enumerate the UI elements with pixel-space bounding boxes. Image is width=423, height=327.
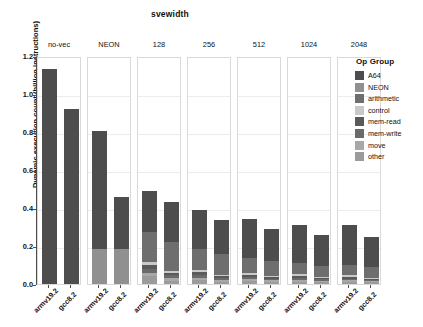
- facet-label-128: 128: [137, 40, 181, 49]
- gridline: [288, 210, 330, 211]
- panel-1024: [287, 57, 331, 285]
- y-tick-label: 1.0: [3, 90, 33, 99]
- gridline: [288, 172, 330, 173]
- bar-segment-other: [164, 281, 179, 284]
- facet-label-256: 256: [187, 40, 231, 49]
- bar-segment-A64: [342, 225, 357, 265]
- bar-512-armv19.2: [242, 219, 257, 284]
- bar-segment-other: [314, 282, 329, 284]
- x-tick-mark: [298, 285, 299, 288]
- x-tick-mark: [98, 285, 99, 288]
- bar-segment-arithmetic: [242, 258, 257, 273]
- bar-segment-A64: [92, 131, 107, 249]
- bar-2048-gcc8.2: [364, 237, 379, 285]
- bar-segment-NEON: [92, 249, 107, 284]
- y-axis-ticks: 0.00.20.40.60.81.01.2: [0, 0, 33, 327]
- facet-label-512: 512: [237, 40, 281, 49]
- y-tick-mark: [33, 171, 36, 172]
- bar-segment-arithmetic: [192, 249, 207, 270]
- x-tick-mark: [348, 285, 349, 288]
- bar-256-gcc8.2: [214, 220, 229, 284]
- y-tick-label: 1.2: [3, 52, 33, 61]
- bar-segment-arithmetic: [292, 263, 307, 274]
- bar-segment-A64: [314, 235, 329, 266]
- bar-NEON-gcc8.2: [114, 197, 129, 284]
- bar-segment-arithmetic: [164, 242, 179, 271]
- bar-segment-A64: [214, 220, 229, 253]
- legend-item-A64: A64: [355, 71, 423, 80]
- panel-NEON: [87, 57, 131, 285]
- bar-segment-other: [364, 282, 379, 284]
- facet-label-NEON: NEON: [87, 40, 131, 49]
- chart-title: svewidth: [0, 9, 340, 19]
- gridline: [238, 210, 280, 211]
- legend-swatch-icon: [355, 94, 364, 103]
- x-tick-mark: [220, 285, 221, 288]
- legend-label: A64: [368, 71, 381, 80]
- bar-segment-other: [142, 276, 157, 284]
- legend-swatch-icon: [355, 117, 364, 126]
- gridline: [188, 134, 230, 135]
- bar-segment-arithmetic: [214, 254, 229, 275]
- legend: Op Group A64NEONarithmeticcontrolmem-rea…: [355, 57, 423, 164]
- legend-swatch-icon: [355, 83, 364, 92]
- x-tick-mark: [198, 285, 199, 288]
- gridline: [338, 172, 380, 173]
- x-tick-label: armv19.2: [232, 290, 257, 315]
- bar-segment-other: [242, 281, 257, 284]
- bar-segment-A64: [364, 237, 379, 268]
- x-tick-mark: [48, 285, 49, 288]
- legend-item-arithmetic: arithmetic: [355, 94, 423, 103]
- legend-label: mem-write: [368, 129, 402, 138]
- bar-segment-arithmetic: [314, 266, 329, 277]
- bar-no-vec-gcc8.2: [64, 109, 79, 284]
- legend-label: NEON: [368, 83, 389, 92]
- y-tick-label: 0.6: [3, 166, 33, 175]
- y-tick-label: 0.8: [3, 128, 33, 137]
- y-tick-mark: [33, 209, 36, 210]
- gridline: [288, 96, 330, 97]
- gridline: [88, 96, 130, 97]
- panel-512: [237, 57, 281, 285]
- bar-segment-NEON: [114, 249, 129, 284]
- gridline: [288, 134, 330, 135]
- panel-no-vec: [37, 57, 81, 285]
- legend-label: move: [368, 141, 386, 150]
- bar-segment-arithmetic: [342, 265, 357, 275]
- chart-figure: svewidth Dynamic execution count (billio…: [0, 0, 423, 327]
- facet-label-2048: 2048: [337, 40, 381, 49]
- bar-NEON-armv19.2: [92, 131, 107, 284]
- bar-128-armv19.2: [142, 191, 157, 284]
- bar-segment-A64: [292, 225, 307, 263]
- x-tick-mark: [370, 285, 371, 288]
- x-tick-label: armv19.2: [182, 290, 207, 315]
- legend-label: other: [368, 152, 384, 161]
- x-tick-mark: [148, 285, 149, 288]
- bar-256-armv19.2: [192, 210, 207, 284]
- y-tick-mark: [33, 285, 36, 286]
- gridline: [188, 172, 230, 173]
- x-tick-mark: [320, 285, 321, 288]
- bar-segment-A64: [242, 219, 257, 258]
- facet-label-no-vec: no-vec: [37, 40, 81, 49]
- gridline: [238, 96, 280, 97]
- legend-swatch-icon: [355, 106, 364, 115]
- bar-128-gcc8.2: [164, 202, 179, 284]
- bar-segment-other: [192, 280, 207, 284]
- y-axis-line: [36, 57, 37, 285]
- legend-label: mem-read: [368, 117, 401, 126]
- bar-segment-A64: [42, 69, 57, 284]
- x-tick-mark: [270, 285, 271, 288]
- legend-item-other: other: [355, 152, 423, 161]
- legend-item-mem-write: mem-write: [355, 129, 423, 138]
- y-tick-label: 0.0: [3, 280, 33, 289]
- y-tick-mark: [33, 95, 36, 96]
- legend-label: arithmetic: [368, 94, 399, 103]
- x-tick-mark: [248, 285, 249, 288]
- x-tick-label: armv19.2: [82, 290, 107, 315]
- bar-segment-A64: [264, 229, 279, 261]
- x-tick-mark: [170, 285, 171, 288]
- bar-no-vec-armv19.2: [42, 69, 57, 284]
- bar-segment-other: [292, 282, 307, 284]
- bar-segment-other: [264, 282, 279, 284]
